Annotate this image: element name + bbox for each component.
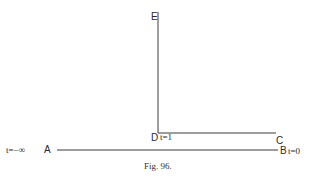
figure-caption: Fig. 96. (144, 162, 172, 171)
point-label-a: A (44, 145, 51, 155)
point-label-b: B (280, 146, 287, 156)
param-label-a: t=−∞ (6, 146, 25, 155)
param-label-b: t=0 (288, 147, 300, 156)
point-label-d: D (151, 133, 158, 143)
point-label-e: E (151, 12, 158, 22)
param-label-d: t=1 (160, 133, 172, 142)
